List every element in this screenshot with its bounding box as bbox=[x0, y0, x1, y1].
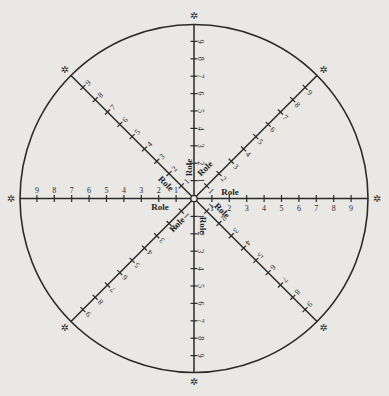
asterisk-icon: ✲ bbox=[319, 322, 327, 333]
tick-label: 3 bbox=[245, 204, 249, 213]
tick-label: 5 bbox=[280, 204, 284, 213]
tick-label: 8 bbox=[332, 204, 336, 213]
role-diagram: 123456789Role✲123456789Role✲123456789Rol… bbox=[0, 0, 389, 396]
tick-label: 4 bbox=[122, 186, 126, 195]
tick-label: 7 bbox=[196, 319, 205, 323]
asterisk-icon: ✲ bbox=[190, 10, 198, 21]
tick-label: 8 bbox=[196, 336, 205, 340]
asterisk-icon: ✲ bbox=[60, 64, 68, 75]
tick-label: 7 bbox=[70, 186, 74, 195]
role-label: Role bbox=[184, 159, 194, 177]
axis-north-east: 123456789Role✲ bbox=[194, 64, 328, 199]
tick-label: 9 bbox=[196, 354, 205, 358]
tick-label: 5 bbox=[105, 186, 109, 195]
tick-label: 3 bbox=[196, 144, 205, 148]
tick-label: 3 bbox=[196, 249, 205, 253]
role-label: Role bbox=[151, 202, 169, 212]
tick-label: 6 bbox=[196, 301, 205, 305]
tick-label: 7 bbox=[196, 74, 205, 78]
role-label: Role bbox=[198, 217, 208, 235]
asterisk-icon: ✲ bbox=[60, 322, 68, 333]
center-marker bbox=[191, 195, 197, 201]
tick-label: 9 bbox=[349, 204, 353, 213]
axis-south-east: 123456789Role✲ bbox=[194, 199, 328, 334]
asterisk-icon: ✲ bbox=[7, 193, 15, 204]
axis-south: 123456789Role✲ bbox=[190, 199, 208, 388]
tick-label: 6 bbox=[87, 186, 91, 195]
asterisk-icon: ✲ bbox=[190, 376, 198, 387]
tick-label: 5 bbox=[196, 109, 205, 113]
tick-label: 6 bbox=[297, 204, 301, 213]
radial-role-diagram: 123456789Role✲123456789Role✲123456789Rol… bbox=[0, 0, 389, 396]
tick-label: 8 bbox=[196, 57, 205, 61]
tick-label: 4 bbox=[196, 126, 205, 130]
tick-label: 9 bbox=[35, 186, 39, 195]
tick-label: 6 bbox=[196, 92, 205, 96]
asterisk-icon: ✲ bbox=[319, 64, 327, 75]
role-label: Role bbox=[221, 187, 239, 197]
tick-label: 7 bbox=[314, 204, 318, 213]
tick-label: 2 bbox=[157, 186, 161, 195]
tick-label: 4 bbox=[196, 267, 205, 271]
tick-label: 8 bbox=[52, 186, 56, 195]
tick-label: 9 bbox=[196, 39, 205, 43]
tick-label: 4 bbox=[262, 204, 266, 213]
axis-north-west: 123456789Role✲ bbox=[60, 64, 194, 199]
tick-label: 5 bbox=[196, 284, 205, 288]
tick-label: 3 bbox=[139, 186, 143, 195]
asterisk-icon: ✲ bbox=[373, 193, 381, 204]
axis-south-west: 123456789Role✲ bbox=[60, 199, 194, 334]
tick-label: 1 bbox=[196, 179, 205, 183]
